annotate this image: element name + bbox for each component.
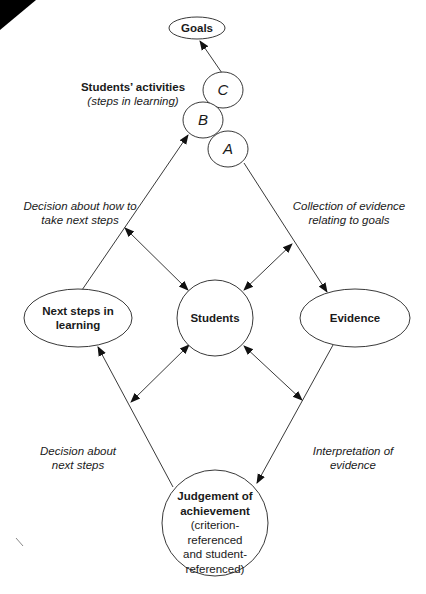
- arrow-a-to-evidence: [244, 163, 327, 292]
- activities-label: Students’ activities (steps in learning): [78, 80, 188, 108]
- next-steps-line2: learning: [28, 318, 128, 332]
- interpretation-line1: Interpretation of: [298, 444, 408, 458]
- collection-line2: relating to goals: [286, 213, 412, 227]
- collection-line1: Collection of evidence: [286, 199, 412, 213]
- step-c-label: C: [203, 82, 243, 98]
- judgement-line5: and student-: [160, 547, 270, 562]
- decision-how-line2: take next steps: [20, 213, 140, 227]
- decision-how-label: Decision about how to take next steps: [20, 199, 140, 227]
- evidence-label: Evidence: [315, 311, 395, 325]
- goals-label: Goals: [167, 21, 227, 35]
- decision-next-line2: next steps: [28, 458, 128, 472]
- judgement-line2: achievement: [160, 504, 270, 519]
- step-b-label: B: [183, 112, 223, 128]
- students-label: Students: [175, 311, 255, 325]
- judgement-line3: (criterion-: [160, 518, 270, 533]
- judgement-label: Judgement of achievement (criterion- ref…: [160, 489, 270, 576]
- collection-label: Collection of evidence relating to goals: [286, 199, 412, 227]
- judgement-line1: Judgement of: [160, 489, 270, 504]
- stray-mark: [16, 538, 23, 546]
- judgement-line4: referenced: [160, 533, 270, 548]
- decision-next-line1: Decision about: [28, 444, 128, 458]
- decision-next-label: Decision about next steps: [28, 444, 128, 472]
- activities-subtitle: (steps in learning): [78, 94, 188, 108]
- next-steps-line1: Next steps in: [28, 304, 128, 318]
- double-arrow-students-lower-left: [131, 345, 189, 402]
- interpretation-line2: evidence: [298, 458, 408, 472]
- double-arrow-students-upper-right: [244, 244, 292, 290]
- corner-mark: [0, 0, 36, 30]
- activities-title: Students’ activities: [78, 80, 188, 94]
- next-steps-label: Next steps in learning: [28, 304, 128, 332]
- judgement-line6: referenced): [160, 562, 270, 577]
- double-arrow-students-lower-right: [244, 346, 302, 400]
- interpretation-label: Interpretation of evidence: [298, 444, 408, 472]
- decision-how-line1: Decision about how to: [20, 199, 140, 213]
- step-a-label: A: [208, 141, 248, 157]
- arrow-c-to-goals: [200, 41, 222, 73]
- double-arrow-students-upper-left: [125, 228, 188, 290]
